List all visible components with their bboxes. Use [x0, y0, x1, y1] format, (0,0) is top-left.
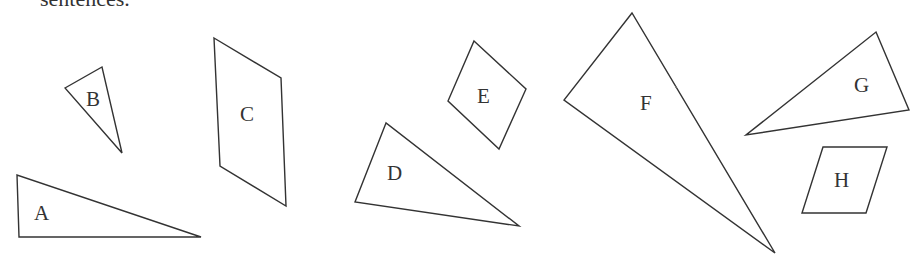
shape-h: H — [802, 147, 887, 213]
label-d: D — [387, 161, 402, 185]
label-h: H — [834, 168, 849, 192]
shapes-diagram: A B C D E F G H — [0, 0, 919, 263]
shape-c: C — [214, 38, 286, 206]
shape-b: B — [65, 67, 122, 153]
stray-dot — [675, 86, 677, 88]
label-g: G — [854, 73, 869, 97]
label-f: F — [640, 91, 652, 115]
label-c: C — [240, 102, 254, 126]
shape-f: F — [564, 13, 775, 253]
triangle-g — [746, 32, 909, 135]
label-b: B — [86, 87, 100, 111]
label-e: E — [477, 84, 490, 108]
shape-g: G — [746, 32, 909, 135]
triangle-d — [355, 123, 519, 226]
shape-a: A — [17, 175, 201, 237]
triangle-f — [564, 13, 775, 253]
label-a: A — [34, 201, 50, 225]
shape-e: E — [448, 41, 526, 149]
shape-d: D — [355, 123, 519, 226]
